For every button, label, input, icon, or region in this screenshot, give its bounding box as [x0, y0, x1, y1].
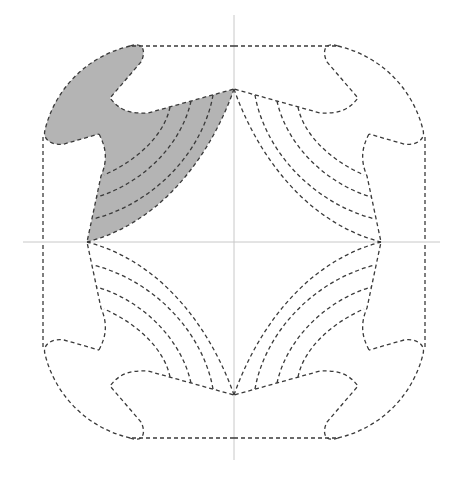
- quadrant-top-right: [234, 45, 425, 242]
- quadrant-bottom-right: [234, 242, 425, 439]
- highlighted-pole-region: [44, 45, 234, 242]
- stator-diagram: [0, 0, 462, 485]
- quadrant-bottom-left: [43, 242, 234, 439]
